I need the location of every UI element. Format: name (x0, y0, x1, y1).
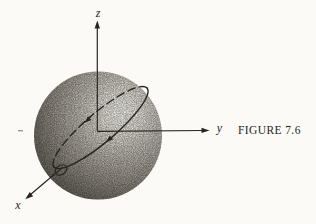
print-speck-artifact (18, 130, 23, 131)
x-axis-label: x (14, 198, 21, 212)
z-axis-label: z (95, 6, 101, 20)
sphere-group (34, 72, 162, 200)
y-axis-line (97, 131, 204, 132)
sphere-stipple-texture (34, 72, 162, 200)
y-axis-label: y (216, 121, 223, 135)
figure-page: z y x FIGURE 7.6 (0, 0, 316, 224)
figure-7-6-diagram: z y x FIGURE 7.6 (0, 0, 316, 224)
figure-caption: FIGURE 7.6 (238, 124, 301, 136)
